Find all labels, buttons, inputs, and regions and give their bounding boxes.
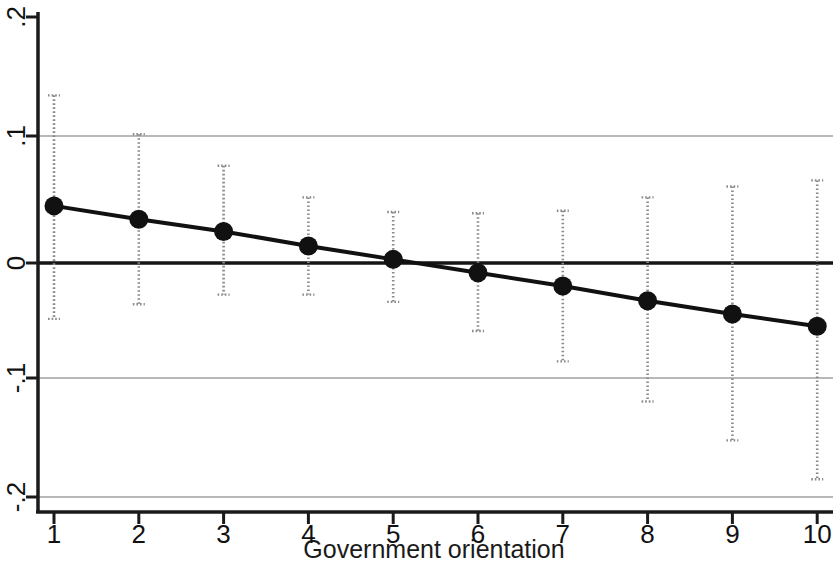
data-point-marker [469,263,488,282]
data-point-marker [214,222,233,241]
data-point-marker [808,317,827,336]
y-tick-label--0.2: -.2 [1,482,31,512]
y-tick-label-0.1: .1 [1,125,31,147]
data-point-marker [299,236,318,255]
y-tick-label--0.1: -.1 [1,363,31,393]
y-tick-label-0: 0 [1,256,31,270]
x-axis-title: Government orientation [303,535,564,563]
marginal-effects-plot: .2 .1 0 -.1 -.2 12345678910 Government o… [0,0,833,570]
data-point-marker [45,196,64,215]
x-tick-label-9: 9 [725,519,739,549]
data-point-marker [384,250,403,269]
x-tick-label-2: 2 [132,519,146,549]
x-tick-label-3: 3 [216,519,230,549]
y-tick-label-0.2: .2 [1,6,31,28]
chart-figure: .2 .1 0 -.1 -.2 12345678910 Government o… [0,0,833,570]
data-point-marker [129,210,148,229]
data-point-marker [723,305,742,324]
x-tick-label-8: 8 [640,519,654,549]
data-point-marker [553,277,572,296]
plot-background [0,0,833,570]
x-tick-label-10: 10 [803,519,832,549]
data-point-marker [638,291,657,310]
x-tick-label-1: 1 [47,519,61,549]
